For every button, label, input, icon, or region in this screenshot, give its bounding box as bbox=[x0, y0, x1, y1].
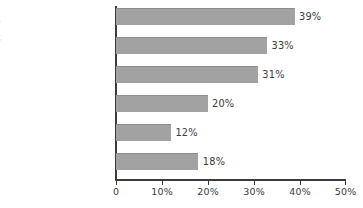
value-label: 33% bbox=[272, 40, 294, 51]
x-tick-0 bbox=[116, 180, 117, 185]
x-tick-5 bbox=[345, 180, 346, 185]
x-tick-label-2: 20% bbox=[188, 186, 228, 197]
bar bbox=[116, 8, 295, 25]
x-axis-line bbox=[115, 179, 346, 181]
x-tick-label-3: 30% bbox=[234, 186, 274, 197]
value-label: 39% bbox=[299, 11, 321, 22]
value-label: 18% bbox=[203, 156, 225, 167]
value-label: 12% bbox=[175, 127, 197, 138]
x-tick-label-5: 50% bbox=[326, 186, 363, 197]
x-tick-3 bbox=[254, 180, 255, 185]
x-tick-4 bbox=[300, 180, 301, 185]
bar bbox=[116, 66, 258, 83]
plot-area: 0 10% 20% 30% 40% 50% Derivative shareho… bbox=[0, 0, 363, 208]
x-tick-label-0: 0 bbox=[96, 186, 136, 197]
x-tick-label-4: 40% bbox=[280, 186, 320, 197]
bar bbox=[116, 153, 198, 170]
bar bbox=[116, 95, 208, 112]
x-tick-label-1: 10% bbox=[142, 186, 182, 197]
bar bbox=[116, 124, 171, 141]
bar bbox=[116, 37, 267, 54]
value-label: 31% bbox=[262, 69, 284, 80]
bar-chart: 0 10% 20% 30% 40% 50% Derivative shareho… bbox=[0, 0, 363, 208]
x-tick-1 bbox=[162, 180, 163, 185]
value-label: 20% bbox=[212, 98, 234, 109]
x-tick-2 bbox=[208, 180, 209, 185]
